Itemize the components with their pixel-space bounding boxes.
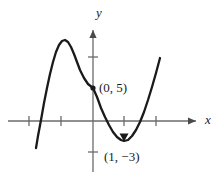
x-axis-arrowhead [188, 117, 196, 124]
graph-figure: y x (0, 5) (1, −3) [0, 0, 222, 177]
cubic-curve [36, 40, 160, 148]
y-axis-label: y [96, 6, 102, 19]
x-axis-label: x [205, 113, 211, 126]
point-label-local-minimum: (1, −3) [104, 150, 140, 163]
point-label-y-intercept: (0, 5) [99, 81, 127, 94]
point-marker-y-intercept [90, 85, 95, 90]
axis-lines [8, 30, 196, 172]
y-axis-arrowhead [89, 30, 96, 38]
